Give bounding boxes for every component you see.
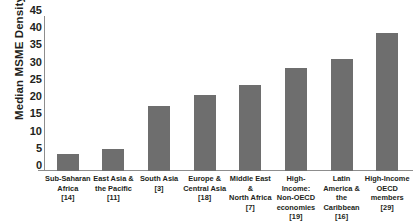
bar — [57, 154, 79, 171]
y-axis-tick-15: 15 — [30, 108, 42, 119]
clipped-caption-text — [0, 219, 415, 222]
y-axis-tick-40: 40 — [30, 22, 42, 33]
x-axis-category-label: Latin America &the Caribbean[16] — [319, 174, 365, 222]
y-axis-tick-45: 45 — [30, 5, 42, 16]
category-name-line: High-Income — [364, 174, 410, 184]
category-count: [18] — [182, 193, 228, 203]
category-count: [29] — [364, 203, 410, 213]
bar — [239, 85, 261, 171]
category-name-line: members — [364, 193, 410, 203]
bar — [331, 59, 353, 171]
y-axis-tick-35: 35 — [30, 39, 42, 50]
category-name-line: South Asia — [136, 174, 182, 184]
category-name-line: North Africa — [228, 193, 274, 203]
x-axis-category-label: Middle East &North Africa[7] — [228, 174, 274, 212]
y-axis-tick-labels: 454035302520151050 — [22, 10, 42, 165]
bar — [285, 68, 307, 171]
category-name-line: East Asia & — [91, 174, 137, 184]
bar — [194, 95, 216, 171]
category-count: [3] — [136, 184, 182, 194]
category-name-line: the Pacific — [91, 184, 137, 194]
category-name-line: Sub-Saharan — [45, 174, 91, 184]
median-msme-density-bar-chart: Median MSME Density 454035302520151050 S… — [0, 0, 415, 222]
bars-container — [45, 16, 410, 171]
x-axis-category-labels: Sub-SaharanAfrica[14]East Asia &the Paci… — [45, 174, 410, 218]
category-name-line: Central Asia — [182, 184, 228, 194]
category-name-line: High-Income: — [273, 174, 319, 193]
bar — [102, 149, 124, 171]
category-count: [11] — [91, 193, 137, 203]
category-name-line: Europe & — [182, 174, 228, 184]
bar — [148, 106, 170, 171]
x-axis-category-label: Sub-SaharanAfrica[14] — [45, 174, 91, 203]
category-count: [7] — [228, 203, 274, 213]
y-axis-tick-0: 0 — [36, 160, 42, 171]
category-name-line: economies — [273, 203, 319, 213]
x-axis-category-label: East Asia &the Pacific[11] — [91, 174, 137, 203]
x-axis-category-label: Europe &Central Asia[18] — [182, 174, 228, 203]
y-axis-tick-20: 20 — [30, 91, 42, 102]
category-name-line: the Caribbean — [319, 193, 365, 212]
y-axis-tick-10: 10 — [30, 125, 42, 136]
x-axis-category-label: South Asia[3] — [136, 174, 182, 193]
y-axis-tick-5: 5 — [36, 142, 42, 153]
bar — [376, 33, 398, 171]
category-name-line: Non-OECD — [273, 193, 319, 203]
category-name-line: Africa — [45, 184, 91, 194]
y-axis-tick-25: 25 — [30, 73, 42, 84]
category-name-line: Middle East & — [228, 174, 274, 193]
category-name-line: OECD — [364, 184, 410, 194]
x-axis-category-label: High-Income:Non-OECDeconomies[19] — [273, 174, 319, 222]
category-count: [14] — [45, 193, 91, 203]
y-axis-tick-30: 30 — [30, 56, 42, 67]
category-name-line: Latin America & — [319, 174, 365, 193]
x-axis-category-label: High-IncomeOECDmembers[29] — [364, 174, 410, 212]
